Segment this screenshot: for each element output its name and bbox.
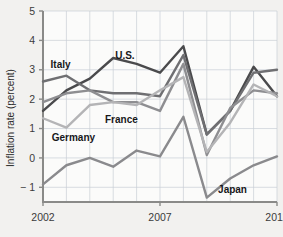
inflation-rate-line-chart: − 1012345 200220072012 Inflation rate (p…	[0, 0, 283, 237]
series-label-germany: Germany	[52, 132, 96, 143]
y-tick-label-2: 2	[29, 93, 35, 105]
series-label-japan: Japan	[218, 184, 247, 195]
y-axis-tick-labels: − 1012345	[20, 5, 35, 193]
x-axis-tick-labels: 200220072012	[31, 211, 283, 223]
y-tick-label-3: 3	[29, 63, 35, 75]
x-tick-label-2007: 2007	[148, 211, 172, 223]
x-tick-label-2002: 2002	[31, 211, 55, 223]
y-tick-label-5: 5	[29, 5, 35, 17]
y-tick-label-0: 0	[29, 152, 35, 164]
x-tick-label-2012: 2012	[265, 211, 283, 223]
chart-figure: − 1012345 200220072012 Inflation rate (p…	[0, 0, 283, 237]
y-axis-title: Inflation rate (percent)	[5, 69, 16, 167]
series-label-france: France	[105, 114, 138, 125]
series-label-us: U.S.	[115, 50, 135, 61]
y-tick-label-1: 1	[29, 122, 35, 134]
y-tick-label--1: − 1	[20, 181, 35, 193]
y-tick-label-4: 4	[29, 34, 35, 46]
series-label-italy: Italy	[51, 59, 71, 70]
